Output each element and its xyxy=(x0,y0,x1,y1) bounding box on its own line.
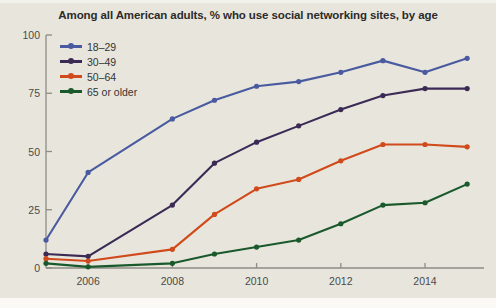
series-data-point xyxy=(212,98,217,103)
series-data-point xyxy=(338,107,343,112)
series-data-point xyxy=(380,93,385,98)
chart-container: Among all American adults, % who use soc… xyxy=(0,0,496,308)
series-data-point xyxy=(296,79,301,84)
series-data-point xyxy=(422,70,427,75)
series-data-point xyxy=(43,256,48,261)
series-data-point xyxy=(170,202,175,207)
chart-line-series xyxy=(43,182,469,270)
series-data-point xyxy=(254,244,259,249)
series-data-point xyxy=(465,144,470,149)
legend-marker-icon xyxy=(68,58,74,64)
y-axis-tick-label: 75 xyxy=(10,87,40,99)
series-data-point xyxy=(422,86,427,91)
legend-item-label: 18–29 xyxy=(87,41,116,53)
x-axis-tick-label: 2006 xyxy=(66,275,110,287)
series-data-point xyxy=(254,186,259,191)
series-data-point xyxy=(338,158,343,163)
series-data-point xyxy=(86,258,91,263)
legend-color-swatch xyxy=(60,60,82,63)
series-data-point xyxy=(465,56,470,61)
legend-item[interactable]: 50–64 xyxy=(60,70,137,83)
x-axis-tick-label: 2012 xyxy=(319,275,363,287)
x-axis-tick-label: 2008 xyxy=(150,275,194,287)
series-data-point xyxy=(465,182,470,187)
y-axis-tick-label: 25 xyxy=(10,204,40,216)
legend-marker-icon xyxy=(68,88,74,94)
series-data-point xyxy=(422,200,427,205)
x-axis-tick-label: 2010 xyxy=(235,275,279,287)
series-data-point xyxy=(380,58,385,63)
legend-color-swatch xyxy=(60,75,82,78)
y-axis-tick-label: 100 xyxy=(10,29,40,41)
series-data-point xyxy=(380,142,385,147)
legend-item-label: 30–49 xyxy=(87,56,116,68)
series-data-point xyxy=(296,177,301,182)
series-data-point xyxy=(170,261,175,266)
chart-legend: 18–2930–4950–6465 or older xyxy=(60,40,137,100)
series-data-point xyxy=(254,140,259,145)
legend-marker-icon xyxy=(68,43,74,49)
series-data-point xyxy=(212,161,217,166)
x-axis-tick-label: 2014 xyxy=(403,275,447,287)
y-axis-tick-label: 50 xyxy=(10,146,40,158)
y-axis-tick-label: 0 xyxy=(10,262,40,274)
series-data-point xyxy=(254,84,259,89)
series-data-point xyxy=(170,247,175,252)
series-data-point xyxy=(296,237,301,242)
series-data-point xyxy=(43,251,48,256)
series-data-point xyxy=(212,212,217,217)
series-data-point xyxy=(380,202,385,207)
legend-item[interactable]: 30–49 xyxy=(60,55,137,68)
series-data-point xyxy=(212,251,217,256)
series-data-point xyxy=(86,264,91,269)
series-data-point xyxy=(296,123,301,128)
legend-color-swatch xyxy=(60,45,82,48)
series-data-point xyxy=(86,170,91,175)
legend-marker-icon xyxy=(68,73,74,79)
legend-item[interactable]: 18–29 xyxy=(60,40,137,53)
legend-color-swatch xyxy=(60,90,82,93)
series-data-point xyxy=(422,142,427,147)
series-data-point xyxy=(43,261,48,266)
legend-item-label: 65 or older xyxy=(87,86,137,98)
chart-line-series xyxy=(43,86,469,259)
series-data-point xyxy=(43,237,48,242)
series-data-point xyxy=(86,254,91,259)
series-line xyxy=(46,89,467,257)
legend-item-label: 50–64 xyxy=(87,71,116,83)
series-data-point xyxy=(170,116,175,121)
legend-item[interactable]: 65 or older xyxy=(60,85,137,98)
series-data-point xyxy=(338,221,343,226)
series-data-point xyxy=(465,86,470,91)
series-line xyxy=(46,184,467,267)
series-data-point xyxy=(338,70,343,75)
